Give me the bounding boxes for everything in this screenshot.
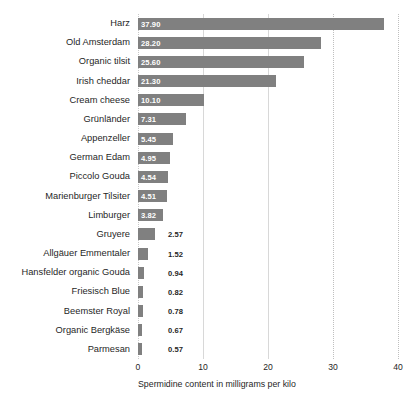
bar[interactable]: 4.95 xyxy=(138,152,170,164)
x-tick-label: 40 xyxy=(393,362,403,372)
bar-value-label: 0.57 xyxy=(168,345,183,354)
bar-row: Beemster Royal0.78 xyxy=(0,302,412,321)
bar-value-label: 0.78 xyxy=(168,307,183,316)
bar-track: 10.10 xyxy=(138,91,398,110)
x-tick-label: 20 xyxy=(263,362,273,372)
bar[interactable]: 10.10 xyxy=(138,94,204,106)
category-label: Limburger xyxy=(0,210,130,221)
category-label: Cream cheese xyxy=(0,95,130,106)
bar-value-label: 21.30 xyxy=(141,77,161,86)
category-label: Friesisch Blue xyxy=(0,286,130,297)
bar-row: Allgäuer Emmentaler1.52 xyxy=(0,244,412,263)
category-label: Irish cheddar xyxy=(0,76,130,87)
bar-value-label: 2.57 xyxy=(168,230,183,239)
category-label: Piccolo Gouda xyxy=(0,171,130,182)
category-label: Old Amsterdam xyxy=(0,37,130,48)
bar[interactable] xyxy=(138,324,142,336)
x-tick-label: 0 xyxy=(136,362,141,372)
category-label: Organic tilsit xyxy=(0,56,130,67)
bar-value-label: 25.60 xyxy=(141,57,161,66)
bar-row: Gruyere2.57 xyxy=(0,225,412,244)
bar-track: 4.51 xyxy=(138,187,398,206)
bar-row: Harz37.90 xyxy=(0,14,412,33)
category-label: Parmesan xyxy=(0,344,130,355)
bar-track: 5.45 xyxy=(138,129,398,148)
bar-row: German Edam4.95 xyxy=(0,148,412,167)
category-label: Harz xyxy=(0,18,130,29)
bar-row: Hansfelder organic Gouda0.94 xyxy=(0,263,412,282)
bar-value-label: 0.67 xyxy=(168,326,183,335)
bar[interactable]: 28.20 xyxy=(138,37,321,49)
bar-value-label: 4.95 xyxy=(141,153,156,162)
bar-track: 25.60 xyxy=(138,52,398,71)
category-label: Beemster Royal xyxy=(0,306,130,317)
bar-value-label: 5.45 xyxy=(141,134,156,143)
bar[interactable]: 4.54 xyxy=(138,171,168,183)
bar[interactable] xyxy=(138,286,143,298)
bar-track: 2.57 xyxy=(138,225,398,244)
bar[interactable]: 4.51 xyxy=(138,190,167,202)
bar-value-label: 3.82 xyxy=(141,211,156,220)
bar-track: 4.54 xyxy=(138,167,398,186)
bar-row: Piccolo Gouda4.54 xyxy=(0,167,412,186)
category-label: Grünländer xyxy=(0,114,130,125)
bar-row: Appenzeller5.45 xyxy=(0,129,412,148)
bar[interactable] xyxy=(138,248,148,260)
x-tick-label: 30 xyxy=(328,362,338,372)
bar[interactable] xyxy=(138,305,143,317)
category-label: German Edam xyxy=(0,152,130,163)
bar-track: 0.57 xyxy=(138,340,398,359)
bar-value-label: 1.52 xyxy=(168,249,183,258)
x-tick-label: 10 xyxy=(198,362,208,372)
bar-row: Marienburger Tilsiter4.51 xyxy=(0,187,412,206)
bar[interactable]: 37.90 xyxy=(138,18,384,30)
plot-area: Harz37.90Old Amsterdam28.20Organic tilsi… xyxy=(0,0,412,408)
bar-track: 0.67 xyxy=(138,321,398,340)
bar-track: 1.52 xyxy=(138,244,398,263)
category-label: Appenzeller xyxy=(0,133,130,144)
bar-value-label: 4.54 xyxy=(141,172,156,181)
x-axis-title: Spermidine content in milligrams per kil… xyxy=(138,379,412,389)
spermidine-bar-chart: Harz37.90Old Amsterdam28.20Organic tilsi… xyxy=(0,0,412,408)
bar-track: 21.30 xyxy=(138,72,398,91)
bar-track: 7.31 xyxy=(138,110,398,129)
bar-value-label: 0.94 xyxy=(168,268,183,277)
bar[interactable]: 3.82 xyxy=(138,209,163,221)
bar-value-label: 7.31 xyxy=(141,115,156,124)
bar[interactable] xyxy=(138,343,142,355)
bar-row: Organic Bergkäse0.67 xyxy=(0,321,412,340)
bar-row: Friesisch Blue0.82 xyxy=(0,282,412,301)
category-label: Organic Bergkäse xyxy=(0,325,130,336)
bar-row: Grünländer7.31 xyxy=(0,110,412,129)
bar-value-label: 0.82 xyxy=(168,287,183,296)
bar-track: 4.95 xyxy=(138,148,398,167)
bar-track: 0.78 xyxy=(138,302,398,321)
bar-value-label: 4.51 xyxy=(141,192,156,201)
bar-value-label: 28.20 xyxy=(141,38,161,47)
x-axis: 010203040 xyxy=(138,359,398,379)
bar[interactable] xyxy=(138,228,155,240)
bar-row: Limburger3.82 xyxy=(0,206,412,225)
bar-row: Parmesan0.57 xyxy=(0,340,412,359)
bar-row: Old Amsterdam28.20 xyxy=(0,33,412,52)
bar-rows: Harz37.90Old Amsterdam28.20Organic tilsi… xyxy=(0,14,412,359)
bar-value-label: 10.10 xyxy=(141,96,161,105)
bar-track: 3.82 xyxy=(138,206,398,225)
category-label: Allgäuer Emmentaler xyxy=(0,248,130,259)
category-label: Gruyere xyxy=(0,229,130,240)
bar-track: 0.82 xyxy=(138,282,398,301)
bar[interactable]: 7.31 xyxy=(138,113,186,125)
bar[interactable]: 25.60 xyxy=(138,56,304,68)
bar[interactable]: 21.30 xyxy=(138,75,276,87)
bar[interactable]: 5.45 xyxy=(138,133,173,145)
category-label: Marienburger Tilsiter xyxy=(0,191,130,202)
bar-track: 0.94 xyxy=(138,263,398,282)
bar-row: Organic tilsit25.60 xyxy=(0,52,412,71)
category-label: Hansfelder organic Gouda xyxy=(0,267,130,278)
bar-track: 37.90 xyxy=(138,14,398,33)
bar-track: 28.20 xyxy=(138,33,398,52)
bar[interactable] xyxy=(138,267,144,279)
bar-row: Cream cheese10.10 xyxy=(0,91,412,110)
bar-row: Irish cheddar21.30 xyxy=(0,72,412,91)
bar-value-label: 37.90 xyxy=(141,19,161,28)
